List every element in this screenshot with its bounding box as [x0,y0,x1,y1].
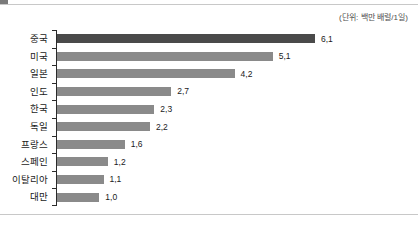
bar-group: 1,0 [57,188,117,206]
category-label: 일본 [0,69,52,79]
bar-row: 대만 1,0 [0,188,418,206]
axis-tick [52,171,56,172]
axis-tick [52,118,56,119]
category-label: 프랑스 [0,140,52,150]
bar-italy [57,175,104,184]
category-label: 중국 [0,34,52,44]
axis-tick [52,153,56,154]
bar-taiwan [57,193,99,202]
bar-value-label: 1,2 [114,158,126,167]
bar-value-label: 5,1 [279,52,291,61]
category-label: 미국 [0,52,52,62]
bar-group: 2,3 [57,100,172,118]
bar-value-label: 1,0 [105,193,117,202]
bar-korea [57,105,154,114]
category-label: 대만 [0,192,52,202]
bar-value-label: 2,3 [160,105,172,114]
bar-group: 5,1 [57,48,291,66]
bottom-divider [0,214,418,215]
bar-group: 2,7 [57,83,189,101]
axis-tick [52,30,56,31]
bar-row: 미국 5,1 [0,48,418,66]
category-label: 한국 [0,104,52,114]
unit-note: (단위: 백만 배럴/1일) [339,11,408,22]
axis-tick [52,100,56,101]
axis-tick [52,188,56,189]
axis-tick [52,205,56,206]
axis-tick [52,83,56,84]
bar-spain [57,157,108,166]
bar-value-label: 1,6 [131,140,143,149]
category-label: 인도 [0,87,52,97]
bar-value-label: 6,1 [321,35,333,44]
bar-group: 2,2 [57,118,168,136]
axis-tick [52,136,56,137]
bar-row: 스페인 1,2 [0,153,418,171]
bar-value-label: 1,1 [110,175,122,184]
bar-row: 독일 2,2 [0,118,418,136]
bar-row: 이탈리아 1,1 [0,171,418,189]
bar-row: 중국 6,1 [0,30,418,48]
bar-group: 6,1 [57,30,333,48]
bar-group: 1,6 [57,136,143,154]
top-divider [0,4,418,5]
bar-germany [57,122,150,131]
bar-rows: 중국 6,1 미국 5,1 일본 4,2 [0,30,418,206]
bar-value-label: 4,2 [241,70,253,79]
category-label: 독일 [0,122,52,132]
bar-india [57,87,171,96]
bar-row: 일본 4,2 [0,65,418,83]
bar-china [57,34,315,43]
bar-value-label: 2,7 [177,87,189,96]
plot-area: 중국 6,1 미국 5,1 일본 4,2 [0,28,418,208]
chart-figure: (단위: 백만 배럴/1일) 중국 6,1 미국 5,1 [0,0,418,226]
bar-group: 1,1 [57,171,121,189]
bar-row: 인도 2,7 [0,83,418,101]
axis-tick [52,65,56,66]
bar-group: 1,2 [57,153,126,171]
bar-usa [57,52,273,61]
axis-tick [52,48,56,49]
category-label: 스페인 [0,157,52,167]
bar-row: 프랑스 1,6 [0,136,418,154]
category-label: 이탈리아 [0,175,52,185]
bar-row: 한국 2,3 [0,100,418,118]
bar-value-label: 2,2 [156,123,168,132]
bar-group: 4,2 [57,65,252,83]
bar-japan [57,69,235,78]
bar-france [57,140,125,149]
